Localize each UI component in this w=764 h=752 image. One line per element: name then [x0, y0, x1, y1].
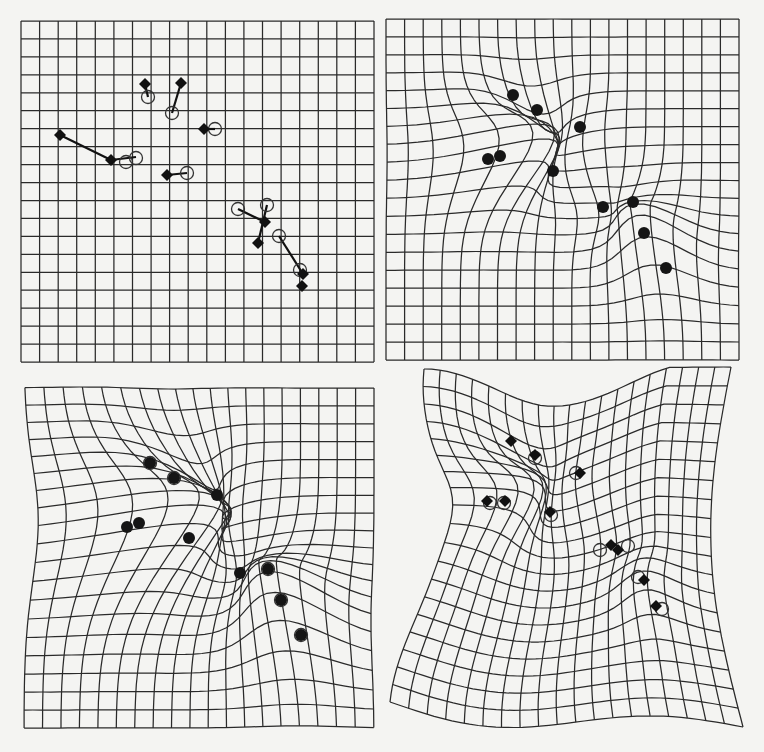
grid-row-line [33, 557, 372, 583]
grid-column-line [633, 374, 650, 716]
landmark-dot-icon [262, 563, 274, 575]
grid-row-line [386, 320, 739, 325]
grid-column-line [409, 370, 475, 708]
grid-row-line [37, 524, 373, 556]
grid-row-line [386, 265, 739, 288]
landmark-dot-icon [168, 472, 180, 484]
landmark-dot-icon [638, 227, 650, 239]
landmark-dot-icon [295, 629, 307, 641]
panel-top-left [21, 21, 374, 362]
grid-column-line [673, 19, 683, 360]
grid-row-line [28, 572, 371, 620]
panel-top-right [386, 19, 739, 360]
panel-bottom-right [390, 367, 743, 728]
landmark-dot-icon [547, 165, 559, 177]
grid-column-line [650, 19, 665, 360]
grid-column-line [226, 388, 237, 728]
grid-row-line [38, 491, 374, 529]
target-landmark-diamond-icon [161, 169, 173, 181]
grid-row-line [387, 161, 739, 188]
grid-column-line [535, 19, 558, 360]
displacement-vector [60, 135, 111, 160]
landmark-dot-icon [211, 489, 223, 501]
landmark-dot-icon [144, 457, 156, 469]
grid-column-line [592, 396, 602, 720]
grid-column-line [423, 19, 433, 360]
grid-column-line [556, 405, 570, 725]
grid-row-line [386, 89, 739, 114]
figure [0, 0, 764, 752]
grid-row-line [403, 649, 729, 676]
landmark-dot-icon [660, 262, 672, 274]
grid-row-line [26, 404, 374, 410]
grid-column-line [240, 388, 247, 727]
target-landmark-diamond-icon [297, 268, 309, 280]
grid-column-line [574, 401, 586, 722]
grid-column-line [739, 19, 740, 360]
grid-column-line [617, 19, 627, 360]
grid-column-line [24, 388, 38, 728]
landmark-dot-icon [531, 104, 543, 116]
grid-column-line [583, 19, 599, 360]
grid-column-line [605, 19, 612, 360]
landmark-dot-icon [494, 150, 506, 162]
deformation-grid-figure [0, 0, 764, 752]
grid-column-line [405, 19, 409, 360]
target-landmark-diamond-icon [139, 78, 151, 90]
grid-column-line [190, 389, 225, 728]
target-landmark-diamond-icon [650, 600, 662, 612]
grid-column-line [664, 367, 687, 718]
grid-row-line [24, 679, 373, 692]
grid-column-line [349, 388, 356, 727]
grid-column-line [565, 19, 577, 360]
grid-row-line [450, 524, 711, 559]
grid-row-line [38, 505, 374, 542]
landmark-dot-icon [121, 521, 133, 533]
landmark-dot-icon [275, 594, 287, 606]
target-landmark-diamond-icon [529, 449, 541, 461]
target-landmark-diamond-icon [198, 123, 210, 135]
grid-column-line [172, 389, 231, 728]
grid-row-line [423, 386, 727, 427]
grid-row-line [24, 726, 374, 728]
grid-row-line [24, 704, 373, 710]
grid-row-line [424, 367, 731, 406]
target-landmark-diamond-icon [54, 129, 66, 141]
landmark-dot-icon [183, 532, 195, 544]
grid-column-line [386, 19, 387, 360]
grid-column-line [711, 367, 743, 727]
grid-row-line [25, 387, 374, 389]
grid-column-line [682, 367, 706, 720]
landmark-dot-icon [574, 121, 586, 133]
grid-row-line [386, 72, 739, 86]
target-landmark-diamond-icon [638, 574, 650, 586]
grid-row-line [424, 404, 724, 449]
grid-column-line [621, 382, 634, 717]
panel-bottom-left [24, 387, 374, 728]
grid-column-line [629, 19, 646, 360]
grid-row-line [386, 341, 739, 342]
grid-row-line [386, 294, 739, 306]
grid-column-line [697, 19, 702, 360]
grid-column-line [116, 388, 199, 728]
landmark-dot-icon [482, 153, 494, 165]
landmark-dot-icon [507, 89, 519, 101]
grid-row-line [386, 237, 739, 271]
grid-column-line [647, 368, 668, 716]
landmark-dot-icon [627, 196, 639, 208]
grid-row-line [397, 667, 733, 693]
grid-row-line [393, 685, 738, 711]
grid-column-line [300, 388, 319, 726]
grid-row-line [386, 55, 739, 60]
grid-column-line [371, 388, 374, 728]
target-landmark-diamond-icon [505, 435, 517, 447]
grid-column-line [498, 19, 555, 360]
grid-column-line [153, 389, 231, 728]
grid-column-line [718, 19, 720, 360]
target-landmark-diamond-icon [175, 77, 187, 89]
landmark-dot-icon [133, 517, 145, 529]
grid-column-line [553, 19, 563, 360]
grid-row-line [387, 186, 739, 203]
landmark-dot-icon [234, 567, 246, 579]
landmark-dot-icon [597, 201, 609, 213]
